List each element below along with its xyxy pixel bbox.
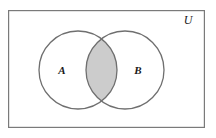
set-a-label: A — [57, 64, 65, 76]
venn-diagram-canvas: A B U — [0, 0, 216, 138]
universe-label: U — [184, 13, 194, 27]
venn-diagram-container: A B U — [0, 0, 216, 138]
set-b-label: B — [133, 64, 141, 76]
